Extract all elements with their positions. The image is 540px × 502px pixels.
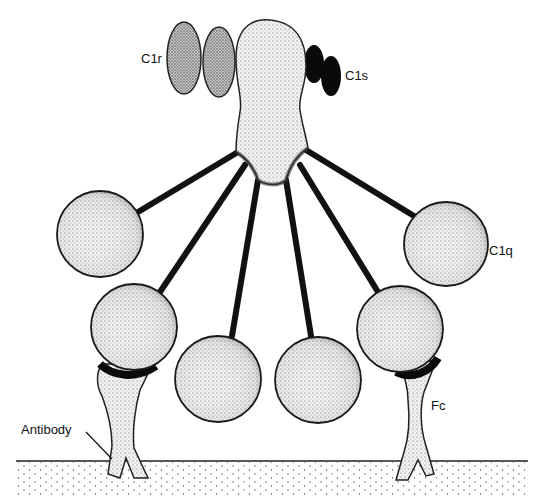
label-antibody: Antibody — [21, 423, 72, 436]
diagram-canvas — [0, 0, 540, 502]
c1r-ellipse-2 — [203, 27, 235, 97]
stalk-3 — [232, 180, 258, 336]
surface-dotted-region — [16, 462, 528, 496]
c1s-ellipse-2 — [321, 56, 341, 96]
c1r — [167, 22, 235, 97]
c1q-head-1 — [57, 191, 143, 277]
label-fc: Fc — [431, 399, 445, 412]
label-c1r: C1r — [141, 52, 162, 65]
c1q-core — [236, 20, 308, 185]
c1r-ellipse-1 — [167, 22, 201, 94]
c1q-head-4 — [275, 337, 361, 423]
c1s — [304, 45, 341, 96]
antibody-pointer — [86, 432, 112, 459]
label-c1s: C1s — [345, 69, 368, 82]
c1-complex-diagram: C1r C1s C1q Fc Antibody — [0, 0, 540, 502]
c1q-head-2 — [91, 284, 177, 370]
stalk-2 — [160, 165, 245, 292]
surface — [16, 461, 528, 496]
c1q-head-3 — [175, 336, 261, 422]
label-c1q: C1q — [489, 244, 513, 257]
c1s-ellipse-1 — [304, 45, 324, 83]
c1q-head-6 — [404, 202, 488, 286]
stalk-4 — [286, 180, 311, 336]
antibody-pointer-line — [86, 432, 112, 459]
c1q-head-5 — [357, 286, 443, 372]
